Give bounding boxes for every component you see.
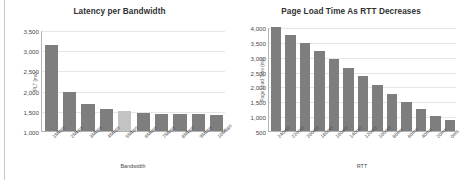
bar (416, 109, 426, 131)
plot-area-wrapper: 1,0001,5002,0002,5003,0003,500 1Mbps2Mbp… (41, 31, 225, 132)
y-axis-tick-label: 3,500 (24, 28, 39, 35)
bar (271, 27, 281, 131)
bar (63, 92, 76, 131)
y-axis-tick-label: 2,000 (24, 88, 39, 95)
y-axis-tick-label: 4,000 (251, 25, 266, 32)
y-axis-tick-label: 3,500 (251, 39, 266, 46)
bar (358, 76, 368, 131)
bar (285, 35, 295, 131)
bar (300, 43, 310, 131)
bar (314, 51, 324, 131)
y-axis-tick-label: 1,500 (24, 108, 39, 115)
x-axis-title: RTT (258, 163, 466, 169)
plot-area (41, 31, 225, 132)
x-axis-title: Bandwidth (31, 163, 235, 169)
chart-title: Latency per Bandwidth (5, 7, 234, 16)
chart-page-load-time-as-rtt-decreases: Page Load Time As RTT Decreases Page Loa… (236, 0, 466, 180)
y-axis-tick-label: 3,000 (24, 48, 39, 55)
bar (401, 102, 411, 131)
bar (81, 104, 94, 131)
bar-series (42, 31, 225, 131)
bar-series (269, 28, 456, 131)
y-axis-tick-label: 1,000 (24, 129, 39, 136)
bar (343, 68, 353, 131)
figure-canvas: Latency per Bandwidth PLT (ms) 1,0001,50… (0, 0, 468, 180)
y-axis-tick-label: 2,500 (251, 69, 266, 76)
y-axis-tick-label: 1,000 (251, 114, 266, 121)
y-axis-title: PLT (ms) (33, 31, 38, 132)
y-axis-tick-label: 2,000 (251, 84, 266, 91)
plot-area (268, 28, 456, 132)
y-axis-tick-label: 3,000 (251, 54, 266, 61)
y-axis-tick-label: 2,500 (24, 68, 39, 75)
plot-area-wrapper: 5001,0001,5002,0002,5003,0003,5004,000 2… (268, 28, 456, 132)
y-axis-tick-label: 1,500 (251, 99, 266, 106)
y-axis-tick-label: 500 (256, 129, 266, 136)
chart-title: Page Load Time As RTT Decreases (236, 7, 466, 16)
chart-latency-per-bandwidth: Latency per Bandwidth PLT (ms) 1,0001,50… (4, 0, 234, 180)
bar (329, 59, 339, 131)
bar (45, 45, 58, 131)
